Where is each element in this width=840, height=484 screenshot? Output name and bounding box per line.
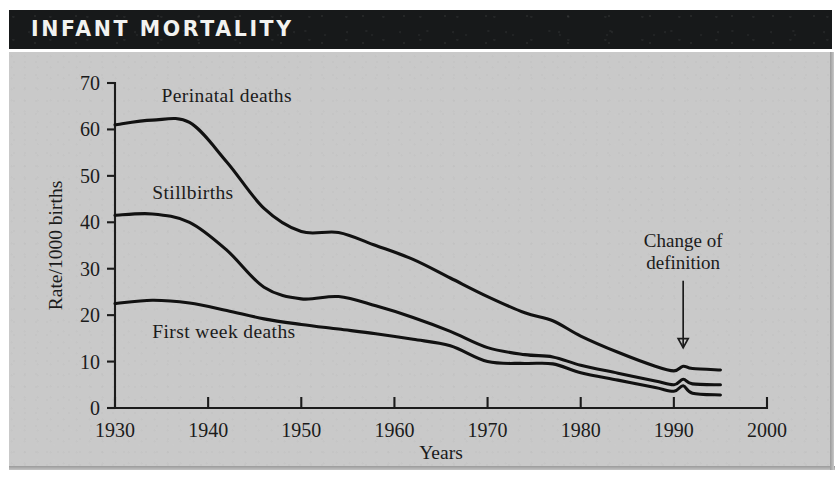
y-tick-label: 0 xyxy=(90,397,100,419)
series-label: Stillbirths xyxy=(152,182,233,203)
x-tick-label: 1960 xyxy=(374,419,414,441)
y-tick-label: 10 xyxy=(80,351,100,373)
annotation-line-2: definition xyxy=(646,252,720,273)
infant-mortality-figure: INFANT MORTALITY 19301940195019601970198… xyxy=(0,0,840,484)
y-tick-label: 50 xyxy=(80,165,100,187)
data-curves xyxy=(115,119,720,395)
x-tick-label: 1930 xyxy=(95,419,135,441)
tick-marks xyxy=(107,83,674,408)
x-tick-label: 1970 xyxy=(468,419,508,441)
annotation-line-1: Change of xyxy=(644,230,723,251)
x-tick-label: 1990 xyxy=(654,419,694,441)
series-label: Perinatal deaths xyxy=(162,85,292,106)
annotations: Change ofdefinition xyxy=(644,230,723,348)
y-axis-title: Rate/1000 births xyxy=(45,181,66,310)
x-tick-label: 1950 xyxy=(281,419,321,441)
y-tick-label: 60 xyxy=(80,118,100,140)
curve-stillbirths xyxy=(115,214,720,385)
x-axis-title: Years xyxy=(419,442,463,463)
y-tick-label: 70 xyxy=(80,72,100,94)
y-tick-label: 30 xyxy=(80,258,100,280)
y-tick-label: 20 xyxy=(80,304,100,326)
y-tick-labels: 010203040506070 xyxy=(80,72,100,419)
y-tick-label: 40 xyxy=(80,211,100,233)
series-labels: Perinatal deathsStillbirthsFirst week de… xyxy=(152,85,295,343)
series-label: First week deaths xyxy=(152,321,295,342)
line-chart: 19301940195019601970198019902000 0102030… xyxy=(0,0,840,484)
x-tick-label: 2000 xyxy=(747,419,787,441)
x-tick-labels: 19301940195019601970198019902000 xyxy=(95,419,787,441)
x-tick-label: 1940 xyxy=(188,419,228,441)
x-tick-label: 1980 xyxy=(561,419,601,441)
curve-first-week-deaths xyxy=(115,300,720,395)
